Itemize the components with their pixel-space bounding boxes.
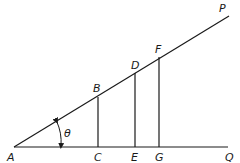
point-label-E: E: [131, 151, 138, 163]
point-label-D: D: [131, 59, 139, 72]
angle-theta-arc-icon: [57, 121, 62, 146]
point-label-G: G: [155, 151, 164, 163]
similar-triangles-diagram: θ A B C D E F G P Q: [0, 0, 240, 163]
point-label-C: C: [94, 151, 102, 163]
point-label-B: B: [93, 82, 101, 95]
point-label-Q: Q: [225, 151, 234, 163]
angle-theta-label: θ: [64, 127, 71, 140]
point-label-A: A: [6, 151, 15, 163]
point-label-P: P: [219, 2, 226, 15]
ray-AP: [14, 16, 229, 147]
point-label-F: F: [155, 43, 162, 56]
